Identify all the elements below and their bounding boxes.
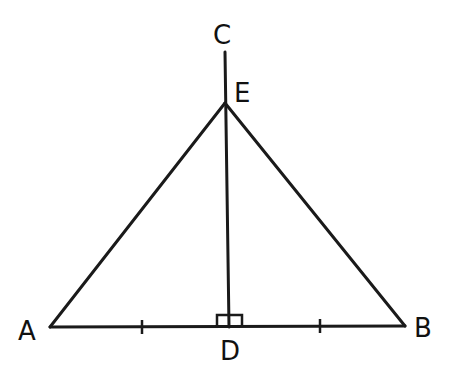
label-d: D (220, 336, 240, 366)
segment-cd (225, 52, 229, 327)
label-b: B (414, 313, 432, 343)
segment-ae (50, 103, 225, 327)
segment-eb (225, 103, 405, 326)
label-e: E (234, 78, 250, 108)
label-c: C (213, 20, 231, 50)
geometry-diagram: A B C D E (0, 0, 450, 371)
label-a: A (18, 316, 36, 346)
